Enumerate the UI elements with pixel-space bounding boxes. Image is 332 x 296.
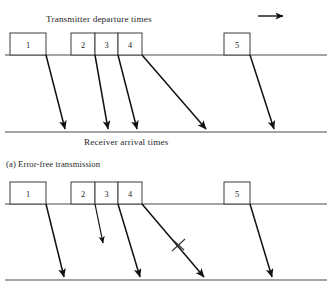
transmission-ray-top-4 (142, 55, 206, 129)
frame-box-label: 1 (26, 41, 30, 50)
frame-box-top-3: 3 (95, 33, 118, 55)
frame-box-label: 5 (235, 190, 239, 199)
transmission-ray-bottom-5 (250, 204, 272, 277)
frame-box-label: 2 (81, 41, 85, 50)
frame-box-label: 5 (235, 41, 239, 50)
top-panel-group: Transmitter departure times 1 2 3 (5, 14, 327, 147)
transmission-ray-top-2 (95, 55, 108, 129)
frame-box-bottom-4: 4 (118, 182, 142, 204)
frame-box-bottom-5: 5 (224, 182, 250, 204)
transmission-ray-bottom-3 (118, 204, 140, 277)
frame-box-label: 2 (81, 190, 85, 199)
frame-box-top-4: 4 (118, 33, 142, 55)
panel-caption-a: (a) Error-free transmission (6, 159, 101, 169)
transmission-ray-top-5 (250, 55, 274, 129)
transmitter-departure-times-label: Transmitter departure times (46, 14, 152, 24)
frame-box-label: 3 (104, 190, 108, 199)
receiver-arrival-times-label: Receiver arrival times (84, 137, 169, 147)
transmission-ray-bottom-1 (46, 204, 64, 277)
frame-box-top-2: 2 (71, 33, 95, 55)
frame-box-label: 3 (104, 41, 108, 50)
transmission-ray-top-1 (46, 55, 65, 129)
frame-box-bottom-3: 3 (95, 182, 118, 204)
bottom-panel-group: 1 2 3 4 5 (5, 182, 327, 280)
frame-box-top-1: 1 (10, 33, 46, 55)
error-x-mark (172, 239, 185, 251)
sliding-window-timing-diagram: Transmitter departure times 1 2 3 (0, 0, 332, 296)
frame-box-bottom-2: 2 (71, 182, 95, 204)
transmission-ray-top-3 (118, 55, 137, 129)
frame-box-bottom-1: 1 (10, 182, 46, 204)
frame-box-top-5: 5 (224, 33, 250, 55)
frame-box-label: 1 (26, 190, 30, 199)
transmission-ray-bottom-2-lost (95, 204, 103, 243)
